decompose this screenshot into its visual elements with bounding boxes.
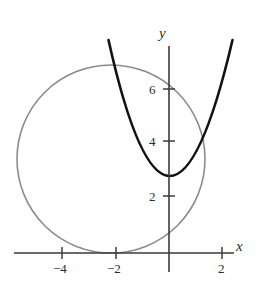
x-axis-label: x <box>236 239 243 254</box>
x-tick-label--2: −2 <box>107 262 121 275</box>
y-axis-label: y <box>159 26 166 41</box>
x-tick-label-2: 2 <box>218 262 225 275</box>
parabola-curve <box>109 40 233 176</box>
x-tick-label--4: −4 <box>53 262 67 275</box>
y-tick-label-2: 2 <box>149 190 156 203</box>
y-tick-label-4: 4 <box>149 135 156 148</box>
graph-figure: −4 −2 2 6 4 2 x y <box>0 0 260 291</box>
y-tick-label-6: 6 <box>149 83 156 96</box>
plot-canvas <box>0 0 260 291</box>
circle-curve <box>17 65 205 253</box>
